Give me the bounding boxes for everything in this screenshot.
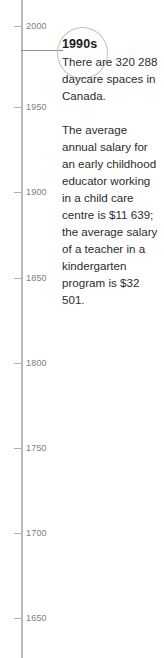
callout-paragraph-salaries: The average annual salary for an early c… — [62, 121, 162, 308]
axis-tick-1650 — [14, 618, 21, 619]
axis-tick-label-1750: 1750 — [26, 444, 47, 453]
axis-tick-label-1850: 1850 — [26, 274, 47, 283]
axis-tick-1800 — [14, 363, 21, 364]
callout-text-column: 1990s There are 320 288 daycare spaces i… — [62, 36, 162, 308]
axis-tick-1900 — [14, 192, 21, 193]
axis-tick-label-2000: 2000 — [26, 22, 47, 31]
paragraph-spacer — [62, 104, 162, 121]
axis-tick-label-1950: 1950 — [26, 103, 47, 112]
axis-tick-1850 — [14, 278, 21, 279]
callout-paragraph-daycare-spaces: There are 320 288 daycare spaces in Cana… — [62, 53, 162, 104]
axis-tick-1750 — [14, 448, 21, 449]
axis-tick-label-1900: 1900 — [26, 188, 47, 197]
axis-tick-1700 — [14, 533, 21, 534]
callout-era-heading: 1990s — [62, 36, 162, 53]
axis-tick-2000 — [14, 26, 21, 27]
axis-tick-label-1800: 1800 — [26, 359, 47, 368]
axis-tick-label-1700: 1700 — [26, 529, 47, 538]
timeline-axis — [21, 0, 23, 658]
timeline-figure: 2000 1950 1900 1850 1800 1750 1700 1650 … — [0, 0, 164, 658]
axis-tick-1950 — [14, 107, 21, 108]
axis-tick-label-1650: 1650 — [26, 614, 47, 623]
